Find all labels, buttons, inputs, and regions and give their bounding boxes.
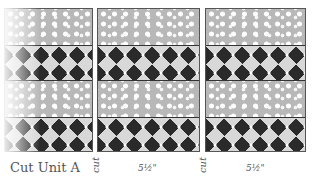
pattern-band [98, 117, 199, 152]
pattern-band [206, 45, 305, 81]
left-fade [0, 8, 40, 152]
unit-label: Cut Unit A [10, 160, 80, 175]
strip-2 [97, 8, 200, 152]
dots-band [98, 9, 199, 45]
dots-band [206, 81, 305, 117]
strip-3 [205, 8, 306, 152]
dots-band [98, 81, 199, 117]
dimension-label-2: 5½" [246, 163, 265, 173]
dots-band [206, 9, 305, 45]
pattern-band [98, 45, 199, 81]
pattern-band [206, 117, 305, 152]
cut-label-1: cut [90, 157, 101, 173]
cut-label-2: cut [197, 157, 208, 173]
dimension-label-1: 5½" [138, 163, 157, 173]
